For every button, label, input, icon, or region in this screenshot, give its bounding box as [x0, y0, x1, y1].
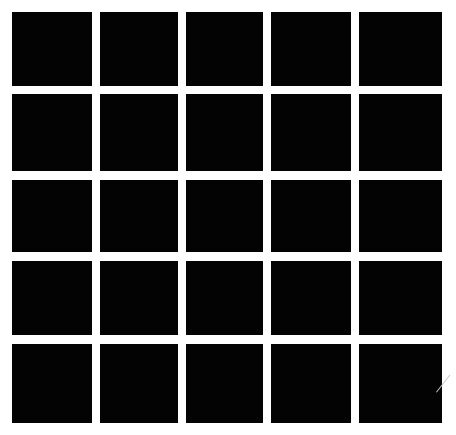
grid-cell-r1-c2	[100, 12, 178, 86]
grid-cell-r3-c4	[271, 180, 351, 252]
grid-cell-r2-c3	[186, 94, 263, 171]
grid-cell-r5-c1	[12, 344, 92, 423]
grid-cell-r4-c3	[186, 261, 263, 335]
grid-cell-r5-c4	[271, 344, 351, 423]
grid-cell-r4-c2	[100, 261, 178, 335]
grid-cell-r2-c4	[271, 94, 351, 171]
grid-cell-r1-c1	[12, 12, 92, 86]
grid-cell-r2-c1	[12, 94, 92, 171]
grid-cell-r1-c5	[359, 12, 442, 86]
grid-cell-r2-c2	[100, 94, 178, 171]
grid-cell-r3-c5	[359, 180, 442, 252]
grid-cell-r5-c2	[100, 344, 178, 423]
grid-cell-r3-c1	[12, 180, 92, 252]
grid-cell-r5-c3	[186, 344, 263, 423]
grid-cell-r4-c5	[359, 261, 442, 335]
grid-cell-r4-c1	[12, 261, 92, 335]
grid-cell-r1-c4	[271, 12, 351, 86]
grid-cell-r3-c2	[100, 180, 178, 252]
grid-cell-r4-c4	[271, 261, 351, 335]
grid-cell-r3-c3	[186, 180, 263, 252]
grid-cell-r1-c3	[186, 12, 263, 86]
grid-cell-r2-c5	[359, 94, 442, 171]
grid-cell-r5-c5	[359, 344, 442, 423]
